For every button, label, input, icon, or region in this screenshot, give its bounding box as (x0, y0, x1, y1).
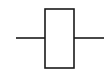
diagram-canvas (0, 0, 111, 84)
resistor-body (45, 9, 74, 68)
resistor-icon (0, 0, 111, 84)
